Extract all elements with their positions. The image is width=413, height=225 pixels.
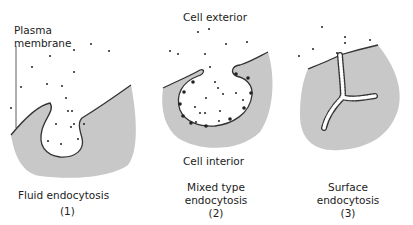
- caption-line-2: endocytosis: [180, 194, 252, 207]
- caption-line-2: endocytosis: [312, 194, 384, 207]
- cell-interior-label: Cell interior: [183, 155, 244, 168]
- panel-3-caption: Surface endocytosis (3): [312, 181, 384, 220]
- label-line-1: Plasma: [14, 24, 71, 37]
- panel-3-number: (3): [312, 207, 384, 220]
- panel-2-number: (2): [180, 207, 252, 220]
- cell-exterior-label: Cell exterior: [183, 11, 247, 24]
- panel-1-caption: Fluid endocytosis: [18, 189, 109, 202]
- panel-2-cell: [162, 28, 272, 148]
- caption-line-1: Surface: [312, 181, 384, 194]
- panel-1-cell: [10, 43, 136, 178]
- panel-3-cell: [298, 26, 400, 150]
- plasma-membrane-label: Plasma membrane: [14, 24, 71, 50]
- caption-line-1: Mixed type: [180, 181, 252, 194]
- label-line-2: membrane: [14, 37, 71, 50]
- panel-2-caption: Mixed type endocytosis (2): [180, 181, 252, 220]
- panel-1-number: (1): [60, 205, 75, 218]
